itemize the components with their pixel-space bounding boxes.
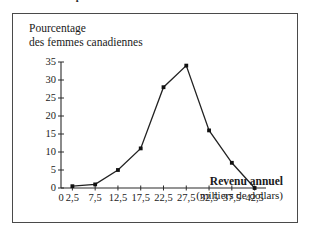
y-tick-label: 5 [34, 165, 56, 175]
figure-caption-text: la répartition de leur revenu annuel en … [55, 0, 256, 2]
data-series-line [72, 66, 254, 188]
x-axis-title-line1: Revenu annuel [196, 174, 283, 188]
y-tick-label: 35 [34, 57, 56, 67]
y-tick-label: 30 [34, 75, 56, 85]
data-point-marker [70, 184, 74, 188]
x-axis-title: Revenu annuel (milliers de dollars) [196, 174, 283, 202]
data-point-markers [70, 64, 256, 190]
y-tick-label: 10 [34, 147, 56, 157]
y-tick-label: 0 [34, 183, 56, 193]
data-point-marker [184, 64, 188, 68]
y-axis-title-line1: Pourcentage [29, 22, 143, 36]
y-tick-label: 25 [34, 93, 56, 103]
data-point-marker [230, 161, 234, 165]
data-point-marker [116, 168, 120, 172]
data-point-marker [93, 183, 97, 187]
figure-frame: Pourcentage des femmes canadiennes 05101… [12, 13, 298, 223]
x-axis-title-line2: (milliers de dollars) [196, 188, 283, 202]
y-tick-label: 20 [34, 111, 56, 121]
y-axis-title-line2: des femmes canadiennes [29, 36, 143, 50]
y-axis-title: Pourcentage des femmes canadiennes [29, 22, 143, 49]
y-tick-label: 15 [34, 129, 56, 139]
data-point-marker [207, 129, 211, 133]
figure-caption-strip: la répartition de leur revenu annuel en … [0, 0, 311, 13]
data-point-marker [162, 85, 166, 89]
data-point-marker [139, 147, 143, 151]
